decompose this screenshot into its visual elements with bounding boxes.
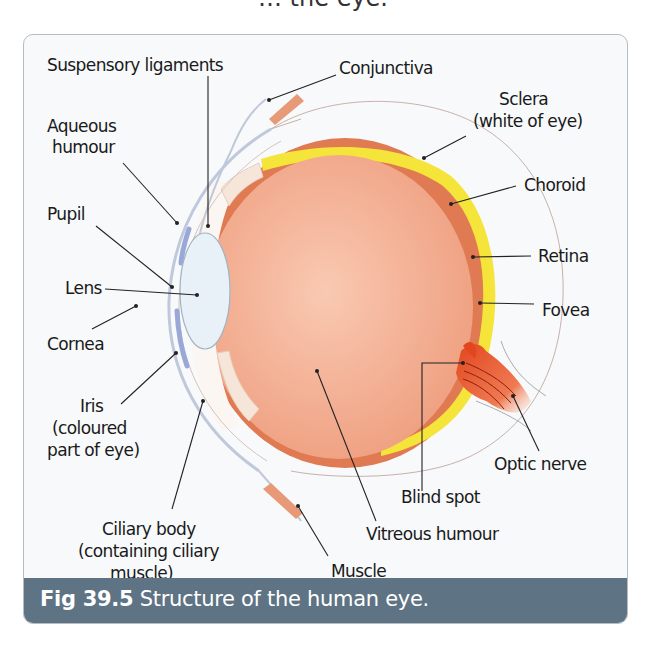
label-iris-sub1: (coloured xyxy=(52,418,127,438)
label-ciliary-body: Ciliary body xyxy=(102,519,196,539)
figure-caption: Fig 39.5 Structure of the human eye. xyxy=(40,587,429,611)
label-retina: Retina xyxy=(538,246,589,266)
page-title-fragment: … the eye. xyxy=(0,0,646,12)
label-fovea: Fovea xyxy=(542,300,590,320)
lens xyxy=(180,233,230,349)
figure-caption-text: Structure of the human eye. xyxy=(133,587,429,611)
label-vitreous-humour: Vitreous humour xyxy=(366,524,499,544)
label-ciliary-sub1: (containing ciliary xyxy=(78,541,220,561)
muscle-bottom xyxy=(263,483,303,519)
label-aqueous-sub: humour xyxy=(52,137,115,157)
label-conjunctiva: Conjunctiva xyxy=(339,58,433,78)
label-choroid: Choroid xyxy=(524,175,585,195)
label-iris-sub2: part of eye) xyxy=(47,440,139,460)
label-iris: Iris xyxy=(80,396,104,416)
label-cornea: Cornea xyxy=(47,334,104,354)
label-blind-spot: Blind spot xyxy=(401,487,481,507)
label-pupil: Pupil xyxy=(47,204,85,224)
caption-bar: Fig 39.5 Structure of the human eye. xyxy=(24,578,627,623)
label-lens: Lens xyxy=(65,278,103,298)
eye-diagram: Suspensory ligaments Conjunctiva Sclera … xyxy=(24,35,627,623)
figure-number: Fig 39.5 xyxy=(40,587,133,611)
label-optic-nerve: Optic nerve xyxy=(494,454,587,474)
label-sclera-sub: (white of eye) xyxy=(473,111,583,131)
figure-panel: Suspensory ligaments Conjunctiva Sclera … xyxy=(23,34,628,624)
label-sclera: Sclera xyxy=(499,89,548,109)
label-suspensory-ligaments: Suspensory ligaments xyxy=(47,55,224,75)
label-aqueous: Aqueous xyxy=(47,116,117,136)
